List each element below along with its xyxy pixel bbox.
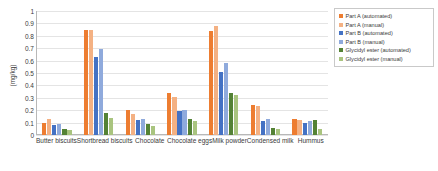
y-tick-label: 0.4 xyxy=(14,82,34,89)
bar[interactable] xyxy=(313,120,317,135)
x-tick-label: Chocolate xyxy=(132,137,167,144)
legend-label: Part B (automated) xyxy=(346,29,393,38)
bar[interactable] xyxy=(303,123,307,135)
bar[interactable] xyxy=(84,30,88,135)
legend-color-swatch xyxy=(339,57,343,61)
gridline xyxy=(36,135,328,136)
legend-color-swatch xyxy=(339,14,343,18)
bar[interactable] xyxy=(146,124,150,135)
bar[interactable] xyxy=(229,93,233,135)
legend-item[interactable]: Part A (automated) xyxy=(339,12,430,21)
legend-item[interactable]: Part B (automated) xyxy=(339,29,430,38)
legend-label: Part B (manual) xyxy=(346,38,385,47)
legend-color-swatch xyxy=(339,40,343,44)
y-tick-label: 0.2 xyxy=(14,107,34,114)
bar[interactable] xyxy=(126,110,130,135)
bar[interactable] xyxy=(67,130,71,135)
x-tick-label: Chocolate eggs xyxy=(167,137,212,144)
bar[interactable] xyxy=(131,114,135,135)
bar[interactable] xyxy=(261,121,265,135)
y-tick-label: 0 xyxy=(14,132,34,139)
bar-group xyxy=(245,11,287,135)
bar[interactable] xyxy=(136,120,140,135)
bar[interactable] xyxy=(62,129,66,135)
bar[interactable] xyxy=(251,105,255,135)
x-axis-labels: Butter biscuitsShortbread biscuitsChocol… xyxy=(36,137,328,144)
bar[interactable] xyxy=(219,72,223,135)
bar[interactable] xyxy=(109,118,113,135)
y-tick-label: 0.9 xyxy=(14,20,34,27)
bar-group xyxy=(36,11,78,135)
bar-group xyxy=(161,11,203,135)
y-tick-label: 0.8 xyxy=(14,32,34,39)
bar[interactable] xyxy=(188,119,192,135)
legend-label: Part A (manual) xyxy=(346,21,385,30)
x-tick-label: Shortbread biscuits xyxy=(77,137,133,144)
bar[interactable] xyxy=(177,111,181,135)
y-tick-label: 0.6 xyxy=(14,57,34,64)
bar[interactable] xyxy=(151,126,155,135)
bar[interactable] xyxy=(308,121,312,135)
legend-item[interactable]: Glycidyl ester (automated) xyxy=(339,46,430,55)
y-tick-label: 0.1 xyxy=(14,119,34,126)
y-axis-ticks: 00.10.20.30.40.50.60.70.80.91 xyxy=(14,11,34,135)
legend-label: Glycidyl ester (manual) xyxy=(346,55,403,64)
y-tick-label: 1 xyxy=(14,8,34,15)
bar[interactable] xyxy=(256,106,260,135)
bar-group xyxy=(203,11,245,135)
x-tick-label: Condensed milk xyxy=(247,137,294,144)
bar[interactable] xyxy=(266,119,270,135)
bar[interactable] xyxy=(42,123,46,135)
y-tick-label: 0.5 xyxy=(14,70,34,77)
chart-legend: Part A (automated)Part A (manual)Part B … xyxy=(334,8,434,67)
bar[interactable] xyxy=(172,97,176,135)
bar-chart: (mg/kg) 00.10.20.30.40.50.60.70.80.91 Bu… xyxy=(0,0,438,171)
bar[interactable] xyxy=(57,124,61,135)
legend-item[interactable]: Part B (manual) xyxy=(339,38,430,47)
bar[interactable] xyxy=(182,110,186,135)
bar[interactable] xyxy=(193,121,197,135)
legend-item[interactable]: Part A (manual) xyxy=(339,21,430,30)
legend-label: Glycidyl ester (automated) xyxy=(346,46,411,55)
x-tick-label: Butter biscuits xyxy=(36,137,77,144)
bar[interactable] xyxy=(52,125,56,135)
x-tick-label: Hummus xyxy=(293,137,328,144)
bar[interactable] xyxy=(104,113,108,135)
legend-label: Part A (automated) xyxy=(346,12,393,21)
bar[interactable] xyxy=(99,49,103,135)
bar[interactable] xyxy=(271,128,275,135)
legend-item[interactable]: Glycidyl ester (manual) xyxy=(339,55,430,64)
bar[interactable] xyxy=(276,129,280,135)
plot-area xyxy=(36,11,328,135)
y-tick-label: 0.3 xyxy=(14,94,34,101)
bar-group xyxy=(119,11,161,135)
y-tick-label: 0.7 xyxy=(14,45,34,52)
bar-group xyxy=(78,11,120,135)
bar[interactable] xyxy=(209,31,213,135)
bar[interactable] xyxy=(224,63,228,135)
bar[interactable] xyxy=(89,30,93,135)
bar-group xyxy=(286,11,328,135)
bar[interactable] xyxy=(234,95,238,135)
bar[interactable] xyxy=(141,119,145,135)
bar[interactable] xyxy=(292,119,296,135)
legend-color-swatch xyxy=(339,48,343,52)
bar-groups xyxy=(36,11,328,135)
bar[interactable] xyxy=(47,119,51,135)
legend-color-swatch xyxy=(339,23,343,27)
x-tick-label: Milk powder xyxy=(212,137,247,144)
bar[interactable] xyxy=(297,120,301,135)
bar[interactable] xyxy=(214,26,218,135)
legend-color-swatch xyxy=(339,31,343,35)
bar[interactable] xyxy=(167,93,171,135)
bar[interactable] xyxy=(318,129,322,135)
bar[interactable] xyxy=(94,57,98,135)
